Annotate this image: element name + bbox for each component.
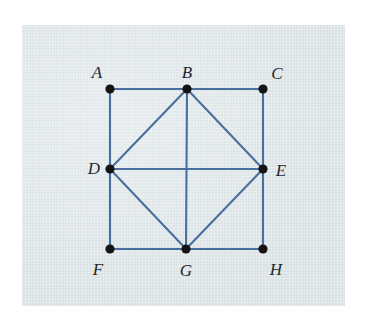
- vertex-label-F: F: [93, 261, 103, 278]
- vertex-label-G: G: [180, 262, 192, 279]
- graph-vertex-H: [258, 244, 267, 253]
- graph-vertex-B: [182, 84, 191, 93]
- graph-edges: [110, 89, 263, 249]
- graph-vertex-D: [105, 164, 114, 173]
- graph-edge-BG: [186, 89, 187, 249]
- graph-edge-EG: [186, 169, 263, 249]
- vertex-label-E: E: [276, 162, 286, 179]
- graph-vertex-A: [105, 84, 114, 93]
- vertex-label-D: D: [88, 160, 100, 177]
- graph-edge-DB: [110, 89, 187, 169]
- graph-edge-BE: [187, 89, 263, 169]
- graph-vertex-F: [105, 244, 114, 253]
- vertex-label-B: B: [182, 64, 192, 81]
- graph-edge-GD: [110, 169, 186, 249]
- vertex-label-A: A: [92, 64, 102, 81]
- vertex-label-C: C: [271, 65, 282, 82]
- graph-vertex-E: [258, 164, 267, 173]
- figure-root: ABCDEFGH: [0, 0, 365, 318]
- graph-vertex-G: [181, 244, 190, 253]
- vertex-label-H: H: [270, 261, 282, 278]
- graph-vertex-C: [258, 84, 267, 93]
